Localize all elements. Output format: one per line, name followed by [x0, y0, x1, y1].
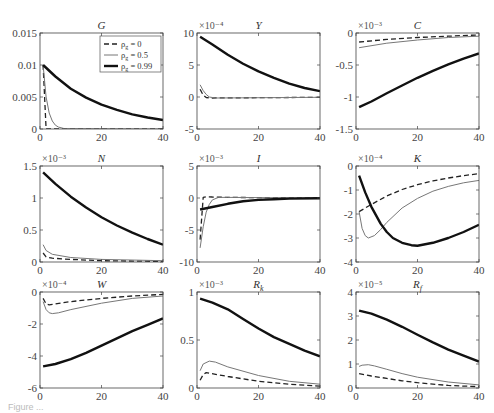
y-tick-label: 0 [32, 286, 38, 298]
y-tick-label: -5 [185, 123, 195, 135]
chart-title: N [97, 152, 106, 164]
y-tick-label: 0 [348, 160, 354, 172]
chart-title: Rf [412, 278, 424, 293]
y-tick-label: -5 [185, 224, 195, 236]
chart-title: W [97, 278, 107, 290]
x-tick-label: 20 [96, 131, 108, 143]
x-tick-label: 0 [353, 264, 359, 276]
axis-scale-label: ×10⁻³ [199, 279, 223, 290]
y-tick-label: -1.5 [336, 123, 354, 135]
y-tick-label: -2 [28, 318, 37, 330]
x-tick-label: 20 [253, 131, 265, 143]
plot-frame [197, 166, 320, 262]
y-tick-label: -3 [344, 232, 354, 244]
series-line [43, 65, 163, 129]
series-line [200, 197, 320, 240]
y-tick-label: 0 [189, 192, 195, 204]
subplot-i: -10-50502040×10⁻³I [179, 152, 326, 276]
x-tick-label: 40 [158, 264, 170, 276]
y-tick-label: 0.015 [12, 27, 37, 39]
axis-scale-label: ×10⁻⁵ [358, 279, 382, 290]
y-tick-label: 1 [32, 192, 38, 204]
y-tick-label: 0 [348, 27, 354, 39]
x-tick-label: 0 [37, 390, 43, 402]
axis-scale-label: ×10⁻⁴ [199, 20, 224, 31]
y-tick-label: 1.5 [23, 160, 37, 172]
subplot-r-k: 00.5102040×10⁻³Rk [180, 278, 326, 402]
axis-scale-label: ×10⁻³ [42, 153, 66, 164]
x-tick-label: 20 [412, 264, 424, 276]
series-line [200, 89, 320, 98]
y-tick-label: 0.5 [23, 224, 37, 236]
y-tick-label: 4 [348, 286, 354, 298]
x-tick-label: 0 [37, 264, 43, 276]
y-tick-label: 3 [348, 310, 354, 322]
series-line [359, 176, 479, 246]
series-line [359, 180, 479, 238]
y-tick-label: -2 [344, 208, 353, 220]
y-tick-label: 0 [189, 91, 195, 103]
y-tick-label: 5 [189, 59, 195, 71]
y-tick-label: 0.01 [18, 59, 37, 71]
y-tick-label: -0.5 [336, 59, 354, 71]
y-tick-label: 5 [189, 160, 195, 172]
chart-title: Y [255, 19, 263, 31]
series-line [43, 65, 163, 120]
series-line [43, 318, 163, 366]
series-line [200, 198, 320, 209]
x-tick-label: 40 [315, 264, 327, 276]
y-tick-label: 1 [189, 286, 195, 298]
y-tick-label: -4 [28, 350, 38, 362]
y-tick-label: 1 [348, 358, 354, 370]
x-tick-label: 20 [412, 390, 424, 402]
plot-frame [356, 33, 479, 129]
figure-caption: Figure ... [8, 402, 44, 412]
y-tick-label: -1 [344, 91, 353, 103]
plot-frame [197, 292, 320, 388]
series-line [200, 37, 320, 91]
x-tick-label: 40 [474, 264, 486, 276]
x-tick-label: 40 [158, 390, 170, 402]
chart-title: Rk [252, 278, 264, 293]
y-tick-label: 10 [183, 27, 195, 39]
y-tick-label: 2 [348, 334, 354, 346]
axis-scale-label: ×10⁻³ [199, 153, 223, 164]
series-line [200, 299, 320, 357]
series-line [359, 54, 479, 108]
series-line [43, 65, 163, 129]
x-tick-label: 20 [253, 264, 265, 276]
legend-label: ρg = 0 [121, 39, 142, 50]
y-tick-label: -4 [344, 256, 354, 268]
x-tick-label: 0 [353, 131, 359, 143]
chart-title: G [98, 19, 106, 31]
legend-label: ρg = 0.5 [121, 50, 148, 61]
impulse-response-figure: 00.0050.010.01502040Gρg = 0ρg = 0.5ρg = … [0, 0, 494, 413]
subplot-y: -5051002040×10⁻⁴Y [183, 19, 326, 143]
x-tick-label: 20 [96, 390, 108, 402]
series-line [359, 35, 479, 42]
series-line [359, 374, 479, 387]
subplot-w: -6-4-2002040×10⁻⁴W [28, 278, 169, 402]
subplot-c: -1.5-1-0.5002040×10⁻³C [336, 19, 485, 143]
series-line [359, 174, 479, 212]
x-tick-label: 40 [158, 131, 170, 143]
x-tick-label: 0 [194, 131, 200, 143]
series-line [43, 296, 163, 314]
axis-scale-label: ×10⁻⁴ [358, 153, 383, 164]
x-tick-label: 40 [474, 390, 486, 402]
x-tick-label: 20 [96, 264, 108, 276]
plot-frame [40, 292, 163, 388]
chart-title: I [256, 152, 262, 164]
x-tick-label: 0 [37, 131, 43, 143]
y-tick-label: -6 [28, 382, 38, 394]
y-tick-label: 0.005 [12, 91, 37, 103]
series-line [200, 361, 320, 384]
subplot-k: -4-3-2-1002040×10⁻⁴K [344, 152, 485, 276]
x-tick-label: 20 [253, 390, 265, 402]
axis-scale-label: ×10⁻³ [358, 20, 382, 31]
subplot-n: 00.511.502040×10⁻³N [23, 152, 169, 276]
series-line [200, 373, 320, 387]
y-tick-label: -10 [179, 256, 194, 268]
subplot-g: 00.0050.010.01502040Gρg = 0ρg = 0.5ρg = … [12, 19, 169, 143]
x-tick-label: 0 [194, 264, 200, 276]
